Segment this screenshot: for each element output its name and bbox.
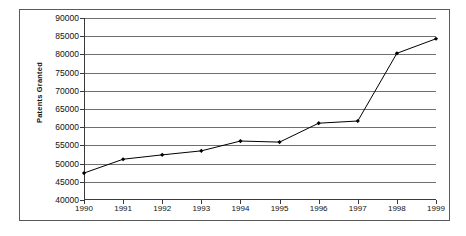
data-point-marker [356, 119, 360, 123]
series-line [84, 39, 436, 173]
y-axis-tick-label: 45000 [32, 177, 79, 187]
x-axis-tick-label: 1995 [260, 204, 300, 213]
x-axis-tick-label: 1996 [299, 204, 339, 213]
x-axis-tick-label: 1990 [64, 204, 104, 213]
y-axis-tick-label: 50000 [32, 159, 79, 169]
data-point-marker [121, 157, 125, 161]
data-point-marker [277, 140, 281, 144]
y-axis-tick-label: 80000 [32, 49, 79, 59]
x-axis-tick-label: 1991 [103, 204, 143, 213]
x-axis-tick-labels: 1990199119921993199419951996199719981999 [84, 204, 436, 218]
x-axis-tick-label: 1998 [377, 204, 417, 213]
x-axis-tick-label: 1992 [142, 204, 182, 213]
y-axis-tick-labels: 4000045000500005500060000650007000075000… [32, 18, 79, 200]
data-point-marker [395, 51, 399, 55]
y-axis-tick-label: 75000 [32, 68, 79, 78]
x-axis-tick-label: 1997 [338, 204, 378, 213]
data-point-marker [238, 139, 242, 143]
data-point-marker [199, 149, 203, 153]
y-axis-tick-label: 70000 [32, 86, 79, 96]
y-axis-tick-label: 65000 [32, 104, 79, 114]
plot-area [84, 18, 436, 200]
data-point-marker [160, 153, 164, 157]
chart-figure: Patents Granted 400004500050000550006000… [19, 9, 450, 221]
x-axis-tick-label: 1994 [220, 204, 260, 213]
y-axis-tick-label: 60000 [32, 122, 79, 132]
data-point-marker [434, 37, 438, 41]
x-axis-tick-label: 1993 [181, 204, 221, 213]
data-point-marker [317, 121, 321, 125]
y-axis-tick-label: 90000 [32, 13, 79, 23]
data-point-marker [82, 171, 86, 175]
x-axis-tick-label: 1999 [416, 204, 456, 213]
line-series [84, 18, 436, 200]
y-axis-tick-label: 55000 [32, 140, 79, 150]
y-axis-tick-label: 85000 [32, 31, 79, 41]
